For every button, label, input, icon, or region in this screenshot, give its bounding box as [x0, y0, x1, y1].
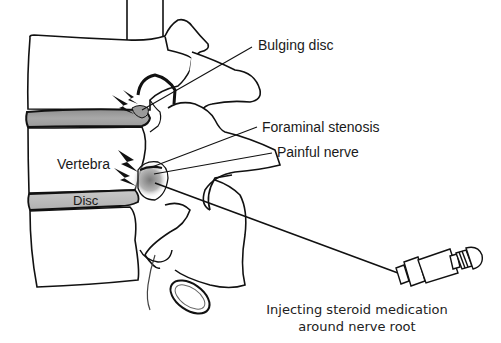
label-painful-nerve: Painful nerve	[277, 145, 359, 159]
caption-line-1: Injecting steroid medication	[262, 301, 452, 318]
label-disc: Disc	[73, 194, 98, 207]
syringe-icon	[396, 247, 482, 286]
caption: Injecting steroid medication around nerv…	[262, 301, 452, 335]
caption-line-2: around nerve root	[262, 318, 452, 335]
label-vertebra: Vertebra	[57, 157, 110, 171]
label-foraminal-stenosis: Foraminal stenosis	[262, 120, 380, 134]
upper-disc	[26, 109, 150, 127]
needle-shaft	[155, 183, 398, 273]
label-bulging-disc: Bulging disc	[258, 38, 334, 52]
pedicle-ring	[165, 274, 216, 321]
upper-vertebra	[28, 0, 261, 112]
